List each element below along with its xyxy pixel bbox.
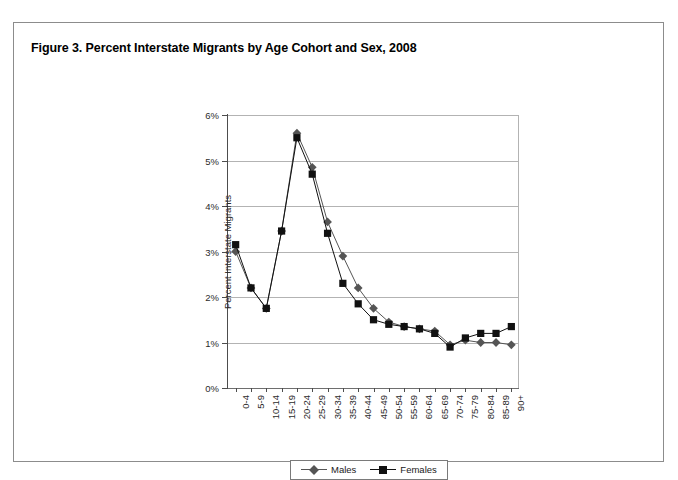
data-point-marker xyxy=(324,230,331,237)
data-point-marker xyxy=(232,241,239,248)
data-point-marker xyxy=(278,227,285,234)
x-axis-tick xyxy=(297,388,298,392)
x-axis-tick xyxy=(450,388,451,392)
data-point-marker xyxy=(293,134,300,141)
chart-legend: Males Females xyxy=(290,460,448,480)
x-axis-tick xyxy=(389,388,390,392)
x-axis-tick-label: 80-84 xyxy=(485,395,496,419)
x-axis-tick xyxy=(266,388,267,392)
x-axis-tick-label: 60-64 xyxy=(423,395,434,419)
data-point-marker xyxy=(354,284,363,293)
series-layer xyxy=(228,115,519,388)
x-axis-tick xyxy=(251,388,252,392)
diamond-marker-icon xyxy=(301,465,327,475)
y-axis-tick-label: 4% xyxy=(205,201,219,212)
legend-entry-females: Females xyxy=(370,464,436,475)
x-axis-tick-label: 0-4 xyxy=(240,395,251,409)
x-axis-tick-label: 90+ xyxy=(515,395,526,411)
x-axis-tick-label: 85-89 xyxy=(500,395,511,419)
x-axis-tick xyxy=(343,388,344,392)
x-axis-tick-label: 30-34 xyxy=(332,395,343,419)
x-axis-tick-label: 35-39 xyxy=(347,395,358,419)
x-axis-tick-label: 25-29 xyxy=(316,395,327,419)
x-axis-tick-label: 45-49 xyxy=(378,395,389,419)
x-axis-tick-label: 65-69 xyxy=(439,395,450,419)
y-axis-tick xyxy=(222,388,228,389)
y-axis-tick-label: 2% xyxy=(205,292,219,303)
data-point-marker xyxy=(339,280,346,287)
data-point-marker xyxy=(355,300,362,307)
x-axis-tick xyxy=(465,388,466,392)
x-axis-tick-label: 15-19 xyxy=(286,395,297,419)
data-point-marker xyxy=(309,171,316,178)
y-axis-tick-label: 3% xyxy=(205,246,219,257)
x-axis-tick xyxy=(236,388,237,392)
y-axis-tick-label: 6% xyxy=(205,110,219,121)
x-axis-tick-label: 50-54 xyxy=(393,395,404,419)
x-axis-tick xyxy=(404,388,405,392)
x-axis-tick-label: 5-9 xyxy=(255,395,266,409)
x-axis-tick-label: 20-24 xyxy=(301,395,312,419)
data-point-marker xyxy=(507,340,516,349)
data-point-marker xyxy=(247,284,254,291)
x-axis-tick xyxy=(358,388,359,392)
data-point-marker xyxy=(338,252,347,261)
x-axis-tick xyxy=(419,388,420,392)
x-axis-tick xyxy=(496,388,497,392)
figure-frame: Figure 3. Percent Interstate Migrants by… xyxy=(13,22,664,462)
data-point-marker xyxy=(508,323,515,330)
chart-plot-area: 0%1%2%3%4%5%6% Percent Interstate Migran… xyxy=(228,115,519,388)
legend-label-males: Males xyxy=(331,464,356,475)
x-axis-tick xyxy=(435,388,436,392)
y-axis-tick-label: 1% xyxy=(205,337,219,348)
x-axis-tick xyxy=(328,388,329,392)
data-point-marker xyxy=(431,330,438,337)
x-axis-tick-label: 70-74 xyxy=(454,395,465,419)
x-axis-tick xyxy=(282,388,283,392)
y-axis-tick-label: 0% xyxy=(205,383,219,394)
x-axis-tick-label: 10-14 xyxy=(270,395,281,419)
data-point-marker xyxy=(416,325,423,332)
figure-title: Figure 3. Percent Interstate Migrants by… xyxy=(31,41,417,55)
y-axis-tick-label: 5% xyxy=(205,155,219,166)
series-line-males xyxy=(236,133,512,345)
series-line-females xyxy=(236,138,512,347)
data-point-marker xyxy=(462,334,469,341)
x-axis-tick xyxy=(374,388,375,392)
data-point-marker xyxy=(385,321,392,328)
data-point-marker xyxy=(492,338,501,347)
x-axis-tick-label: 40-44 xyxy=(362,395,373,419)
data-point-marker xyxy=(263,305,270,312)
data-point-marker xyxy=(492,330,499,337)
square-marker-icon xyxy=(370,465,396,475)
x-axis-tick xyxy=(481,388,482,392)
x-axis-tick-label: 75-79 xyxy=(469,395,480,419)
data-point-marker xyxy=(370,316,377,323)
data-point-marker xyxy=(446,343,453,350)
legend-entry-males: Males xyxy=(301,464,356,475)
x-axis-tick-label: 55-59 xyxy=(408,395,419,419)
data-point-marker xyxy=(477,330,484,337)
x-axis-tick xyxy=(511,388,512,392)
legend-label-females: Females xyxy=(400,464,436,475)
x-axis-tick xyxy=(312,388,313,392)
data-point-marker xyxy=(476,338,485,347)
data-point-marker xyxy=(401,323,408,330)
